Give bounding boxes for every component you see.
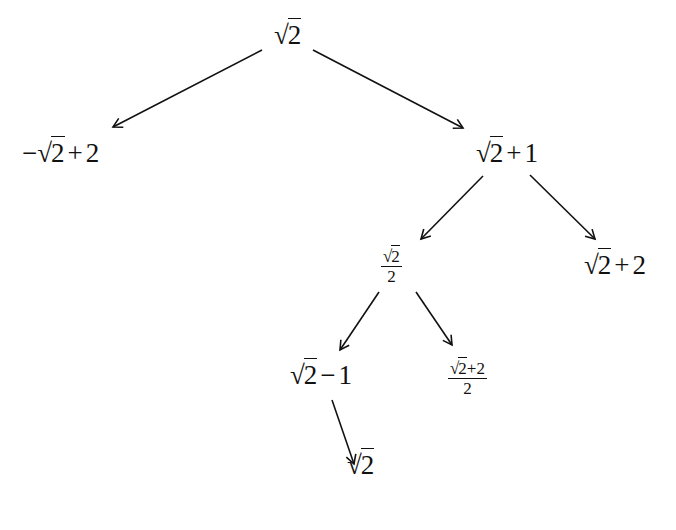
radical: √2 bbox=[274, 22, 301, 49]
radical: √2 bbox=[476, 140, 503, 167]
fraction: √2+2 2 bbox=[448, 360, 487, 397]
arrow-right-to-rr bbox=[530, 175, 595, 239]
edges-layer bbox=[0, 0, 676, 530]
radical: √2 bbox=[584, 252, 611, 279]
arrow-rl-to-rlr bbox=[416, 292, 452, 345]
arrow-root-to-left bbox=[113, 50, 262, 127]
node-right-right: √2+2 bbox=[584, 252, 646, 279]
node-rl-right: √2+2 2 bbox=[448, 360, 487, 397]
arrow-root-to-right bbox=[313, 50, 463, 128]
node-right: √2+1 bbox=[476, 140, 538, 167]
node-rl-left: √2−1 bbox=[290, 362, 352, 389]
arrow-edges bbox=[113, 50, 595, 464]
radical: √2 bbox=[37, 140, 64, 167]
radical: √2 bbox=[347, 452, 374, 479]
node-bottom: √2 bbox=[347, 452, 374, 479]
node-root: √2 bbox=[274, 22, 301, 49]
arrow-right-to-rl bbox=[421, 176, 483, 239]
node-right-left: √2 2 bbox=[381, 248, 402, 285]
node-left: −√2+2 bbox=[22, 140, 99, 167]
radical: √2 bbox=[290, 362, 317, 389]
arrow-rl-to-rll bbox=[340, 292, 379, 350]
fraction: √2 2 bbox=[381, 248, 402, 285]
